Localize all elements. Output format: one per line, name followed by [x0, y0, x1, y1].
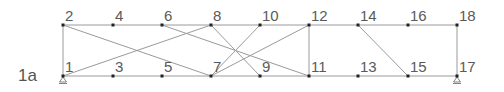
node-label-10: 10	[262, 7, 279, 24]
pin-support-icon	[59, 77, 67, 84]
node-label-9: 9	[262, 58, 270, 75]
member-7-12	[211, 25, 309, 76]
pin-support-icon	[453, 77, 461, 84]
node-label-2: 2	[65, 7, 73, 24]
figure-label: 1a	[18, 66, 37, 85]
node-label-3: 3	[115, 58, 123, 75]
truss-supports	[59, 77, 461, 84]
node-labels: 123456789101112131415161718	[65, 7, 476, 75]
node-label-11: 11	[311, 58, 327, 75]
node-label-18: 18	[459, 7, 476, 24]
truss-diagram: 123456789101112131415161718 1a	[0, 0, 504, 92]
node-label-15: 15	[410, 58, 427, 75]
node-label-4: 4	[115, 7, 123, 24]
node-label-1: 1	[65, 58, 73, 75]
node-label-14: 14	[360, 7, 377, 24]
node-label-12: 12	[311, 7, 328, 24]
node-label-13: 13	[360, 58, 377, 75]
node-label-8: 8	[213, 7, 221, 24]
node-label-17: 17	[459, 58, 476, 75]
node-label-7: 7	[213, 58, 221, 75]
node-label-16: 16	[410, 7, 427, 24]
node-label-5: 5	[164, 58, 172, 75]
node-label-6: 6	[164, 7, 172, 24]
